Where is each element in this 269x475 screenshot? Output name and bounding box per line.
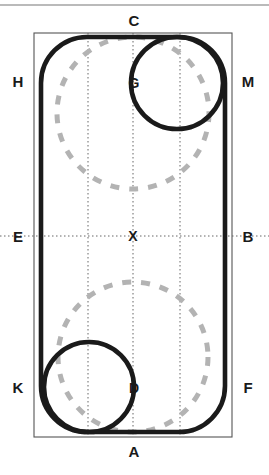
- label-G: G: [127, 76, 141, 90]
- label-A: A: [126, 444, 142, 459]
- solid-circle-bottom-left: [44, 342, 134, 432]
- label-B: B: [240, 229, 256, 244]
- label-H: H: [10, 74, 26, 89]
- label-E: E: [10, 229, 26, 244]
- label-K: K: [10, 380, 26, 395]
- diagram-canvas: C H M G E B X K F D A: [0, 0, 269, 475]
- label-D: D: [127, 381, 141, 395]
- label-F: F: [240, 380, 256, 395]
- label-C: C: [126, 13, 142, 28]
- label-X: X: [126, 229, 140, 243]
- label-M: M: [239, 74, 257, 89]
